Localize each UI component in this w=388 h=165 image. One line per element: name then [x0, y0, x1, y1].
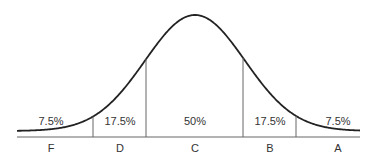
percent-label-f: 7.5% — [38, 115, 63, 127]
percent-label-a: 7.5% — [325, 115, 350, 127]
grade-label-f: F — [48, 142, 55, 154]
bell-curve — [17, 15, 360, 131]
grade-label-a: A — [334, 142, 342, 154]
percent-label-b: 17.5% — [254, 115, 285, 127]
grade-label-b: B — [266, 142, 273, 154]
grade-label-c: C — [191, 142, 199, 154]
percent-label-d: 17.5% — [104, 115, 135, 127]
normal-distribution-chart: 7.5% 17.5% 50% 17.5% 7.5% F D C B A — [0, 0, 388, 165]
percent-label-c: 50% — [184, 115, 206, 127]
grade-label-d: D — [116, 142, 124, 154]
